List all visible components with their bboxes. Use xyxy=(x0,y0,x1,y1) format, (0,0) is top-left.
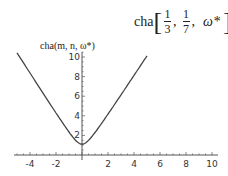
y-tick-label: 10 xyxy=(69,52,81,62)
title-open-bracket: [ xyxy=(153,9,162,35)
x-tick-label: -2 xyxy=(52,159,61,169)
title-func: cha xyxy=(134,14,153,30)
y-tick-label: 4 xyxy=(74,111,80,121)
fraction-1-7: 1 7 xyxy=(183,8,190,35)
x-tick-label: 10 xyxy=(206,159,218,169)
numerator: 1 xyxy=(165,8,171,20)
x-tick-label: -4 xyxy=(26,159,35,169)
y-axis-label: cha(m, n, ω*) xyxy=(40,40,95,51)
fraction-1-3: 1 3 xyxy=(164,8,171,35)
x-tick-label: 6 xyxy=(157,159,163,169)
x-tick-label: 4 xyxy=(131,159,137,169)
title-arg3: ω* xyxy=(203,14,220,30)
denominator: 7 xyxy=(183,23,189,35)
chart-title: cha [ 1 3 , 1 7 , ω* ] xyxy=(134,8,228,35)
denominator: 3 xyxy=(165,23,171,35)
separator: , xyxy=(173,14,177,30)
x-tick-label: 2 xyxy=(105,159,111,169)
separator: , xyxy=(192,14,196,30)
y-tick-label: 8 xyxy=(74,72,80,82)
x-tick-label: 8 xyxy=(183,159,189,169)
numerator: 1 xyxy=(183,8,189,20)
y-tick-label: 6 xyxy=(74,91,80,101)
title-close-bracket: ] xyxy=(223,9,228,35)
